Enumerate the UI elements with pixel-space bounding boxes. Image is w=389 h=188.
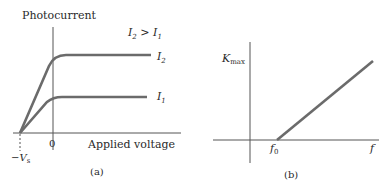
panel-b: Kmax f0 f (b)	[213, 42, 379, 180]
origin-label: 0	[49, 138, 55, 149]
condition-label: I2 > I1	[127, 26, 162, 41]
caption-b: (b)	[284, 169, 298, 180]
x-axis-label-f: f	[369, 142, 376, 155]
panel-a: Photocurrent I2 > I1 I2 I1 0 Applied vol…	[11, 9, 181, 177]
y-axis-label-photocurrent: Photocurrent	[22, 9, 97, 22]
curve-label-i1: I1	[156, 90, 166, 105]
curve-i1	[20, 97, 147, 133]
x-axis-label-applied-voltage: Applied voltage	[87, 138, 175, 151]
caption-a: (a)	[90, 166, 104, 177]
figure: Photocurrent I2 > I1 I2 I1 0 Applied vol…	[0, 0, 389, 188]
curve-i2	[20, 55, 151, 133]
kmax-line	[277, 61, 373, 140]
curve-label-i2: I2	[156, 50, 166, 65]
stopping-voltage-label: −Vs	[11, 152, 31, 165]
threshold-frequency-label: f0	[269, 142, 279, 156]
y-axis-label-kmax: Kmax	[221, 52, 245, 66]
